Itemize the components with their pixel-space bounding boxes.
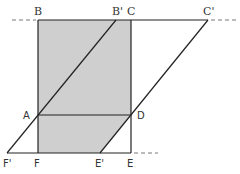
geometry-diagram: B B' C C' A D F' F E' E bbox=[0, 0, 240, 174]
label-f-prime: F' bbox=[3, 158, 12, 169]
label-e: E bbox=[127, 158, 133, 169]
label-d: D bbox=[137, 110, 145, 121]
shaded-region-afe-d bbox=[38, 115, 131, 153]
label-b-prime: B' bbox=[112, 5, 123, 18]
label-c-prime: C' bbox=[203, 5, 214, 18]
label-a: A bbox=[23, 110, 30, 121]
label-b: B bbox=[34, 5, 42, 18]
label-f: F bbox=[34, 158, 40, 169]
label-c: C bbox=[127, 5, 135, 18]
shaded-rectangle-bcda bbox=[38, 20, 131, 115]
label-e-prime: E' bbox=[95, 158, 104, 169]
